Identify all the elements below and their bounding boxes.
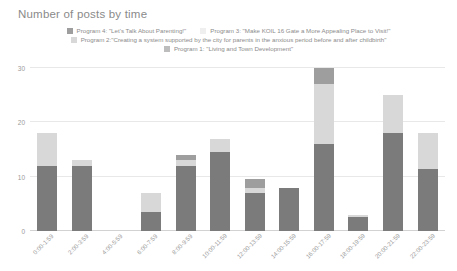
stacked-bar[interactable] [418, 133, 438, 231]
legend-item-label: Program 2:"Creating a system supported b… [81, 36, 387, 44]
bar-segment[interactable] [245, 193, 265, 231]
x-axis-tick-label: 10:00-11:59 [201, 232, 229, 260]
bar-segment[interactable] [314, 144, 334, 231]
bar-group [30, 68, 445, 231]
stacked-bar[interactable] [245, 179, 265, 231]
x-label-slot: 8:00-9:59 [168, 233, 203, 269]
bar-segment[interactable] [279, 188, 299, 231]
chart-legend: Program 4: "Let's Talk About Parenting!"… [0, 27, 457, 53]
x-label-slot: 16:00-17:59 [307, 233, 342, 269]
bar-segment[interactable] [176, 166, 196, 231]
bar-segment[interactable] [210, 152, 230, 231]
x-axis-tick-label: 18:00-19:59 [339, 232, 367, 260]
legend-swatch-program-2 [71, 37, 77, 43]
legend-item-label: Program 3: "Make KOIL 16 Gate a More App… [210, 27, 390, 35]
x-label-slot: 22:00-23:59 [410, 233, 445, 269]
legend-swatch-program-4 [67, 28, 73, 34]
legend-item[interactable]: Program 2:"Creating a system supported b… [71, 36, 387, 44]
stacked-bar[interactable] [279, 188, 299, 231]
stacked-bar[interactable] [210, 139, 230, 231]
bar-slot [237, 68, 272, 231]
legend-item-label: Program 1: "Living and Town Development" [174, 45, 293, 53]
legend-row: Program 4: "Let's Talk About Parenting!"… [67, 27, 391, 35]
x-axis-tick-label: 4:00-5:59 [101, 232, 124, 255]
stacked-bar[interactable] [37, 133, 57, 231]
legend-row: Program 2:"Creating a system supported b… [71, 36, 387, 44]
x-label-slot: 4:00-5:59 [99, 233, 134, 269]
legend-item[interactable]: Program 3: "Make KOIL 16 Gate a More App… [200, 27, 390, 35]
bar-slot [65, 68, 100, 231]
y-axis-tick-label: 30 [18, 65, 25, 72]
x-label-slot: 2:00-3:59 [65, 233, 100, 269]
bar-segment[interactable] [210, 139, 230, 153]
bar-segment[interactable] [348, 217, 368, 231]
legend-item[interactable]: Program 4: "Let's Talk About Parenting!" [67, 27, 187, 35]
chart-container: Number of posts by time Program 4: "Let'… [0, 0, 457, 271]
bar-segment[interactable] [314, 84, 334, 144]
bar-slot [203, 68, 238, 231]
plot-area: 0102030 [30, 68, 445, 231]
x-axis-tick-label: 2:00-3:59 [66, 232, 89, 255]
bar-slot [376, 68, 411, 231]
legend-item-label: Program 4: "Let's Talk About Parenting!" [77, 27, 187, 35]
bar-segment[interactable] [37, 166, 57, 231]
x-label-slot: 0:00-1:59 [30, 233, 65, 269]
bar-segment[interactable] [141, 212, 161, 231]
bar-segment[interactable] [383, 133, 403, 231]
legend-row: Program 1: "Living and Town Development" [164, 45, 293, 53]
stacked-bar[interactable] [314, 68, 334, 231]
legend-item[interactable]: Program 1: "Living and Town Development" [164, 45, 293, 53]
stacked-bar[interactable] [72, 160, 92, 231]
bar-slot [99, 68, 134, 231]
x-label-slot: 14:00-15:59 [272, 233, 307, 269]
x-axis-tick-label: 12:00-13:59 [235, 232, 263, 260]
y-axis-tick-label: 20 [18, 119, 25, 126]
x-axis-tick-label: 0:00-1:59 [32, 232, 55, 255]
x-label-slot: 20:00-21:59 [376, 233, 411, 269]
bar-slot [272, 68, 307, 231]
stacked-bar[interactable] [176, 155, 196, 231]
x-label-slot: 18:00-19:59 [341, 233, 376, 269]
x-axis-tick-label: 16:00-17:59 [304, 232, 332, 260]
x-label-slot: 12:00-13:59 [237, 233, 272, 269]
bar-segment[interactable] [37, 133, 57, 166]
bar-segment[interactable] [314, 68, 334, 84]
stacked-bar[interactable] [383, 95, 403, 231]
bar-slot [410, 68, 445, 231]
page-title: Number of posts by time [18, 8, 147, 20]
bar-segment[interactable] [141, 193, 161, 212]
stacked-bar[interactable] [348, 215, 368, 231]
bar-slot [341, 68, 376, 231]
x-axis-tick-label: 8:00-9:59 [170, 232, 193, 255]
x-label-slot: 10:00-11:59 [203, 233, 238, 269]
bar-segment[interactable] [72, 166, 92, 231]
x-axis-tick-label: 14:00-15:59 [270, 232, 298, 260]
bar-slot [134, 68, 169, 231]
bar-slot [168, 68, 203, 231]
x-label-slot: 6:00-7:59 [134, 233, 169, 269]
x-axis-tick-label: 22:00-23:59 [408, 232, 436, 260]
bar-slot [307, 68, 342, 231]
bar-segment[interactable] [418, 169, 438, 231]
legend-swatch-program-3 [200, 28, 206, 34]
x-axis-tick-label: 20:00-21:59 [373, 232, 401, 260]
bar-slot [30, 68, 65, 231]
bar-segment[interactable] [418, 133, 438, 168]
legend-swatch-program-1 [164, 46, 170, 52]
bar-segment[interactable] [383, 95, 403, 133]
y-axis-tick-label: 10 [18, 173, 25, 180]
stacked-bar[interactable] [141, 193, 161, 231]
bar-segment[interactable] [245, 179, 265, 187]
x-axis-labels: 0:00-1:592:00-3:594:00-5:596:00-7:598:00… [30, 233, 445, 269]
x-axis-tick-label: 6:00-7:59 [135, 232, 158, 255]
y-axis-tick-label: 0 [21, 228, 25, 235]
